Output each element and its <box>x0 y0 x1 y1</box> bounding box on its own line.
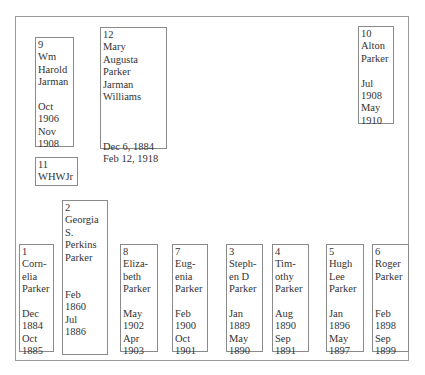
box-text-line: Oct <box>175 333 205 345</box>
box-text-line: Sep <box>275 333 306 345</box>
box-text-line: Perkins <box>65 239 105 251</box>
person-box-1: 1Corn-eliaParkerDec1884Oct1885 <box>19 244 54 352</box>
box-text-line: Williams <box>103 91 164 103</box>
box-text-line <box>65 276 105 288</box>
box-text-line <box>123 296 155 308</box>
box-text-line: Oct <box>22 333 51 345</box>
box-text-line: Lee <box>329 271 361 283</box>
box-text-line: 1884 <box>22 320 51 332</box>
box-text-line <box>65 264 105 276</box>
box-text-line: Eliza- <box>123 258 155 270</box>
person-box-12: 12MaryAugustaParkerJarmanWilliamsDec 6, … <box>100 27 167 149</box>
box-text-line: 1901 <box>175 345 205 357</box>
box-text-line: Roger <box>375 258 406 270</box>
box-text-line: Corn- <box>22 258 51 270</box>
box-text-line: 1889 <box>229 320 260 332</box>
box-text-line: 2 <box>65 202 105 214</box>
box-text-line: Eug- <box>175 258 205 270</box>
person-box-6: 6RogerParkerFeb1898Sep1899 <box>372 244 409 352</box>
box-text-line <box>329 296 361 308</box>
box-text-line: 1910 <box>361 115 391 127</box>
box-text-line: Parker <box>375 271 406 283</box>
box-text-line: Parker <box>229 283 260 295</box>
box-text-line: Jan <box>229 308 260 320</box>
box-text-line: elia <box>22 271 51 283</box>
box-text-line: 12 <box>103 29 164 41</box>
box-text-line: WHWJr <box>38 171 75 183</box>
box-text-line: Jul <box>361 78 391 90</box>
box-text-line <box>103 103 164 115</box>
box-text-line: 1860 <box>65 301 105 313</box>
person-box-3: 3Steph-en DParkerJan1889May1890 <box>226 244 263 352</box>
person-box-5: 5HughLeeParkerJan1896May1897 <box>326 244 364 352</box>
box-text-line: Parker <box>103 66 164 78</box>
box-text-line: Mary <box>103 41 164 53</box>
box-text-line <box>103 128 164 140</box>
person-box-9: 9WmHaroldJarmanOct1906Nov1908 <box>35 37 74 147</box>
person-box-4: 4Tim-othyParkerAug1890Sep1891 <box>272 244 309 352</box>
box-text-line: 9 <box>38 39 71 51</box>
box-text-line: 1906 <box>38 113 71 125</box>
box-text-line: Feb <box>375 308 406 320</box>
box-text-line: 1908 <box>38 138 71 150</box>
box-text-line: Apr <box>123 333 155 345</box>
box-text-line: 1890 <box>275 320 306 332</box>
box-text-line: 4 <box>275 246 306 258</box>
box-text-line: Oct <box>38 101 71 113</box>
box-text-line <box>275 296 306 308</box>
box-text-line <box>38 89 71 101</box>
box-text-line: Jul <box>65 314 105 326</box>
box-text-line: Feb <box>65 289 105 301</box>
box-text-line: Jan <box>329 308 361 320</box>
box-text-line <box>375 296 406 308</box>
box-text-line <box>103 116 164 128</box>
box-text-line: Parker <box>123 283 155 295</box>
box-text-line: Parker <box>361 53 391 65</box>
person-box-7: 7Eug-eniaParkerFeb1900Oct1901 <box>172 244 208 352</box>
box-text-line: Feb <box>175 308 205 320</box>
box-text-line <box>175 296 205 308</box>
box-text-line: 1 <box>22 246 51 258</box>
box-text-line: Georgia <box>65 214 105 226</box>
box-text-line <box>22 296 51 308</box>
box-text-line: Parker <box>22 283 51 295</box>
person-box-11: 11WHWJr <box>35 157 78 186</box>
box-text-line: 3 <box>229 246 260 258</box>
box-text-line <box>375 283 406 295</box>
box-text-line: Nov <box>38 126 71 138</box>
box-text-line: 1908 <box>361 90 391 102</box>
box-text-line: Harold <box>38 64 71 76</box>
box-text-line: Tim- <box>275 258 306 270</box>
box-text-line: enia <box>175 271 205 283</box>
box-text-line: 10 <box>361 28 391 40</box>
box-text-line: Steph- <box>229 258 260 270</box>
box-text-line: 1885 <box>22 345 51 357</box>
box-text-line: 1898 <box>375 320 406 332</box>
box-text-line: 8 <box>123 246 155 258</box>
box-text-line: Dec <box>22 308 51 320</box>
box-text-line: Parker <box>175 283 205 295</box>
box-text-line: Alton <box>361 40 391 52</box>
box-text-line: 1899 <box>375 345 406 357</box>
box-text-line: beth <box>123 271 155 283</box>
box-text-line: 1902 <box>123 320 155 332</box>
box-text-line: Wm <box>38 51 71 63</box>
box-text-line: 1891 <box>275 345 306 357</box>
box-text-line: 1886 <box>65 326 105 338</box>
box-text-line: Hugh <box>329 258 361 270</box>
box-text-line: 1890 <box>229 345 260 357</box>
box-text-line: Feb 12, 1918 <box>103 153 164 165</box>
box-text-line <box>229 296 260 308</box>
box-text-line: 1900 <box>175 320 205 332</box>
box-text-line: Parker <box>275 283 306 295</box>
box-text-line: 5 <box>329 246 361 258</box>
box-text-line: S. <box>65 227 105 239</box>
box-text-line <box>361 65 391 77</box>
box-text-line: Sep <box>375 333 406 345</box>
box-text-line: 1903 <box>123 345 155 357</box>
box-text-line: Dec 6, 1884 <box>103 141 164 153</box>
box-text-line: May <box>123 308 155 320</box>
box-text-line: May <box>229 333 260 345</box>
box-text-line: Aug <box>275 308 306 320</box>
box-text-line: 1896 <box>329 320 361 332</box>
